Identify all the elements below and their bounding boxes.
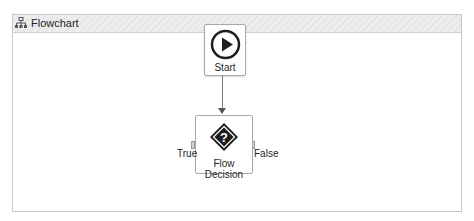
false-branch-label: False bbox=[254, 148, 278, 159]
connector-line[interactable] bbox=[222, 76, 223, 112]
start-label: Start bbox=[205, 62, 245, 73]
svg-text:?: ? bbox=[220, 130, 228, 145]
flowchart-title: Flowchart bbox=[31, 17, 79, 30]
flow-decision-node[interactable]: ? Flow Decision bbox=[195, 115, 253, 174]
arrow-head-icon bbox=[218, 108, 226, 114]
start-node[interactable]: Start bbox=[204, 24, 246, 76]
flowchart-icon bbox=[15, 17, 27, 29]
true-branch-label: True bbox=[177, 148, 197, 159]
flow-decision-label: Flow Decision bbox=[196, 158, 252, 180]
question-diamond-icon: ? bbox=[209, 122, 239, 152]
play-icon bbox=[210, 29, 241, 60]
